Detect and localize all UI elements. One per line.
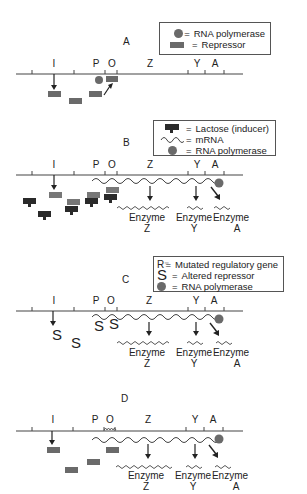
enzyme-y-label: EnzymeY <box>176 212 212 234</box>
arrow-down-icon <box>193 196 199 201</box>
arrow-down-icon <box>145 454 151 459</box>
gene-label-y: Y <box>192 414 199 425</box>
gene-label-i: I <box>53 159 56 170</box>
arrow-down-icon <box>49 440 55 445</box>
gene-label-z: Z <box>146 295 152 306</box>
panel-letter: B <box>123 137 130 148</box>
rna-polymerase <box>215 179 224 188</box>
repressor <box>87 459 100 465</box>
enzyme-y-wave <box>187 342 203 345</box>
enzyme-a-label: EnzymeA <box>213 347 249 369</box>
repressor <box>49 192 62 198</box>
gene-label-i: I <box>53 58 56 69</box>
enzyme-a-label: EnzymeA <box>213 212 249 234</box>
legend-row: = Lactose (inducer) <box>160 123 270 134</box>
panel-d: D I P O Z Y A EnzymeZ EnzymeY EnzymeA <box>0 370 307 494</box>
legend-row: R⁻ = Mutated regulatory gene <box>156 259 278 270</box>
arrow-down-icon <box>51 185 57 190</box>
repressor <box>67 199 80 205</box>
panel-letter: A <box>123 36 130 47</box>
gene-label-y: Y <box>193 295 200 306</box>
repressor <box>106 187 119 193</box>
enzyme-z-label: EnzymeZ <box>129 212 165 234</box>
lactose-icon <box>160 123 184 134</box>
mutated-operator <box>104 428 116 430</box>
gene-label-z: Z <box>147 159 153 170</box>
gene-label-i: I <box>53 295 56 306</box>
altered-repressor-icon: S <box>156 270 170 281</box>
gene-label-o: O <box>107 295 115 306</box>
rna-polymerase <box>215 315 224 324</box>
legend-row: = RNA polymerase <box>166 28 265 39</box>
arrow-down-icon <box>192 454 198 459</box>
gene-label-y: Y <box>194 159 201 170</box>
legend-row: = Repressor <box>166 39 265 50</box>
altered-repressor: S <box>52 327 62 342</box>
legend-b: = Lactose (inducer) = mRNA = RNA polymer… <box>153 120 276 156</box>
panel-b: B I P O Z Y A EnzymeZ EnzymeY EnzymeA = … <box>0 120 307 245</box>
gene-label-i: I <box>52 414 55 425</box>
arrow-down-icon <box>147 196 153 201</box>
gene-label-a: A <box>211 295 218 306</box>
repressor <box>48 91 61 97</box>
arrow-down-icon <box>146 331 152 336</box>
gene-label-z: Z <box>145 414 151 425</box>
polymerase-icon <box>166 28 182 39</box>
arrow-down-icon <box>193 331 199 336</box>
altered-repressor: S <box>109 316 119 331</box>
enzyme-z-label: EnzymeZ <box>128 470 164 492</box>
panel-letter: C <box>122 274 129 285</box>
altered-repressor: S <box>71 335 81 350</box>
lactose-molecules <box>23 194 117 220</box>
enzyme-z-wave <box>117 207 169 210</box>
repressor <box>47 447 60 453</box>
gene-label-a: A <box>212 159 219 170</box>
arrow-down-icon <box>51 85 57 90</box>
gene-label-a: A <box>212 58 219 69</box>
panel-c: C I P O Z Y A S S S S EnzymeZ EnzymeY En… <box>0 245 307 370</box>
enzyme-y-label: EnzymeY <box>175 470 211 492</box>
panel-a: A I P O Z Y A = RNA polymerase = Repress… <box>0 0 307 120</box>
gene-label-o: O <box>108 159 116 170</box>
enzyme-z-wave <box>116 466 172 469</box>
altered-repressor: S <box>94 318 104 333</box>
legend-a: = RNA polymerase = Repressor <box>159 22 271 55</box>
panel-a-drawing <box>0 0 307 120</box>
enzyme-y-wave <box>187 207 203 210</box>
gene-label-p: P <box>92 414 99 425</box>
mrna-wave <box>92 438 220 443</box>
rna-polymerase <box>215 435 224 444</box>
repressor-bound-operator <box>106 76 118 82</box>
enzyme-z-label: EnzymeZ <box>129 347 165 369</box>
legend-row: S = Altered repressor <box>156 270 278 281</box>
repressor <box>87 192 100 198</box>
repressor-icon <box>166 39 190 50</box>
legend-c: R⁻ = Mutated regulatory gene S = Altered… <box>153 256 284 292</box>
enzyme-y-wave <box>186 466 202 469</box>
repressor <box>65 467 78 473</box>
polymerase-icon <box>156 281 170 292</box>
gene-label-p: P <box>93 295 100 306</box>
gene-label-o: O <box>108 58 116 69</box>
gene-label-o: O <box>106 414 114 425</box>
panel-letter: D <box>121 393 128 404</box>
enzyme-y-label: EnzymeY <box>176 347 212 369</box>
enzyme-z-wave <box>117 342 169 345</box>
mrna-icon <box>160 134 184 145</box>
repressor <box>69 98 82 104</box>
legend-row: = RNA polymerase <box>156 281 278 292</box>
gene-label-a: A <box>210 414 217 425</box>
enzyme-a-wave <box>216 342 232 345</box>
repressor <box>106 447 119 453</box>
repressor <box>89 91 102 97</box>
gene-label-p: P <box>93 159 100 170</box>
gene-label-y: Y <box>194 58 201 69</box>
gene-label-p: P <box>93 58 100 69</box>
gene-label-z: Z <box>147 58 153 69</box>
enzyme-a-label: EnzymeA <box>212 470 248 492</box>
enzyme-a-wave <box>214 207 230 210</box>
mrna-wave <box>92 179 220 184</box>
legend-row: = RNA polymerase <box>160 145 270 156</box>
rna-polymerase <box>95 76 103 84</box>
enzyme-a-wave <box>215 466 231 469</box>
